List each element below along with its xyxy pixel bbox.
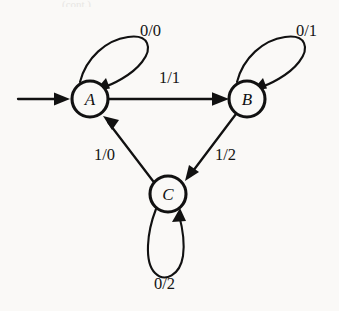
- start-arrow: [18, 93, 70, 106]
- transition-label-a-self: 0/0: [140, 23, 161, 40]
- state-node-a[interactable]: A: [72, 81, 108, 117]
- state-label-b: B: [242, 90, 253, 109]
- transition-label-b-self: 0/1: [296, 23, 317, 40]
- fsm-diagram-canvas: (cont.): [0, 0, 339, 311]
- transition-label-b-to-c: 1/2: [215, 147, 236, 164]
- state-node-b[interactable]: B: [229, 81, 265, 117]
- state-label-a: A: [84, 90, 96, 109]
- transition-label-c-self: 0/2: [154, 276, 175, 293]
- state-label-c: C: [162, 185, 174, 204]
- state-node-c[interactable]: C: [150, 176, 186, 212]
- transition-label-a-to-b: 1/1: [159, 70, 180, 87]
- self-loop-c: [148, 208, 186, 277]
- edge-a-to-b: [108, 92, 229, 105]
- transition-label-c-to-a: 1/0: [94, 147, 115, 164]
- fsm-svg: A B C: [0, 0, 339, 311]
